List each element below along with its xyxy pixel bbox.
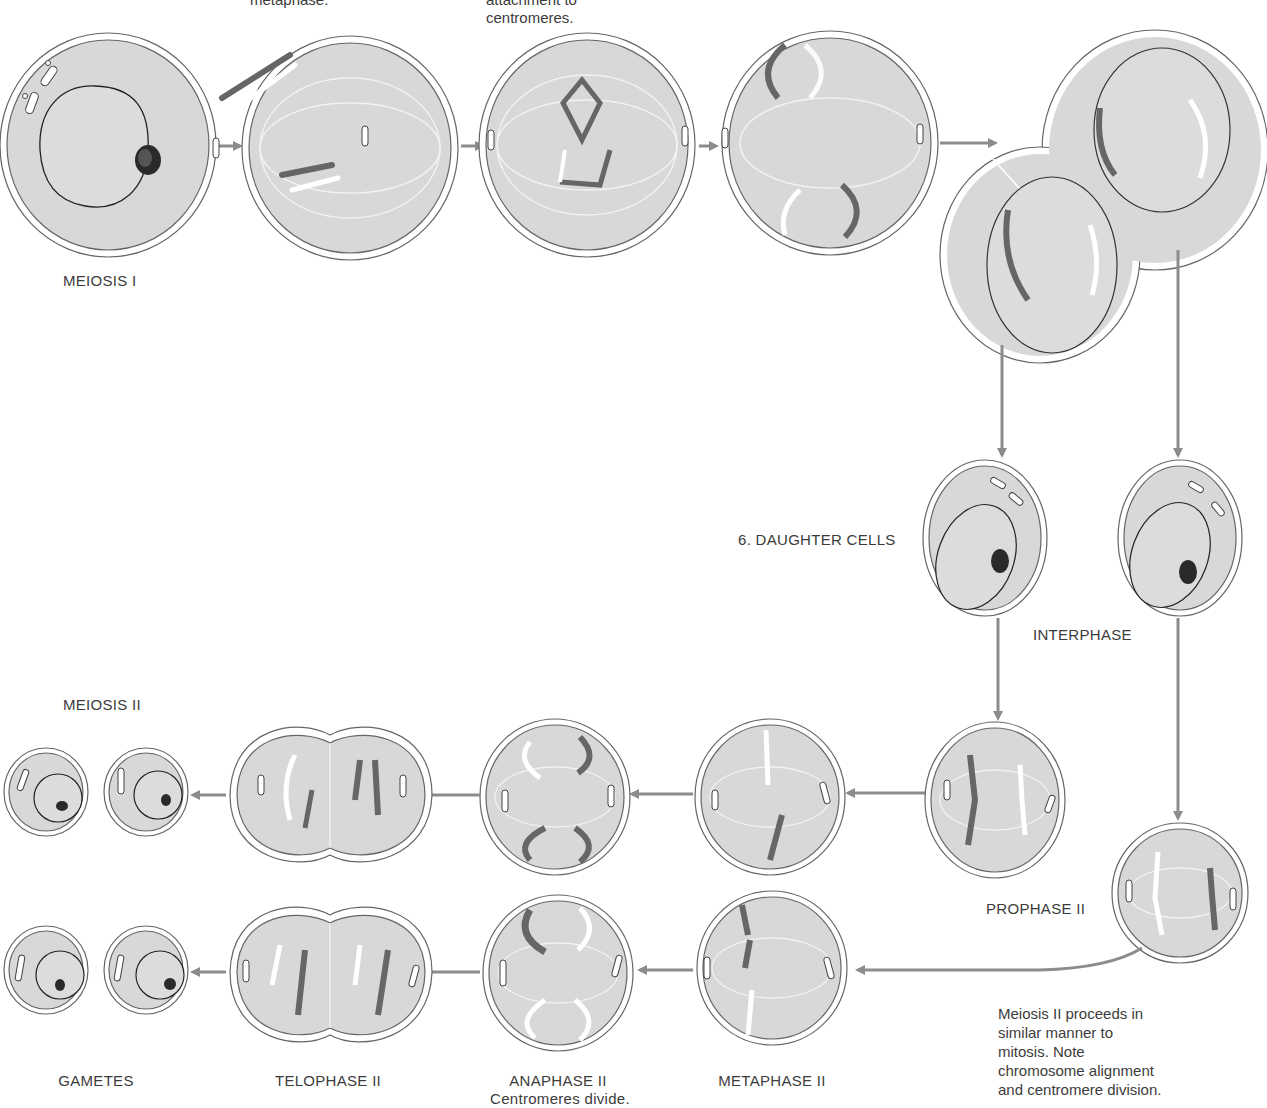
stage-sublabel-centromeres-divide: Centromeres divide. bbox=[490, 1090, 630, 1108]
cell-meiosis1-interphase bbox=[0, 33, 216, 257]
cell-telophase2-lower bbox=[230, 907, 432, 1042]
note-line: Meiosis II proceeds in bbox=[998, 1004, 1228, 1023]
cell-prophase2-left bbox=[925, 722, 1065, 878]
cell-metaphase2-upper bbox=[695, 719, 845, 875]
cell-meiosis1-anaphase bbox=[722, 31, 938, 255]
cell-gamete-lower-2 bbox=[104, 926, 188, 1014]
cell-meiosis1-attachment bbox=[479, 33, 695, 257]
cell-prophase2-right bbox=[1112, 823, 1248, 963]
cell-metaphase2-lower bbox=[697, 891, 847, 1045]
cell-anaphase2-upper bbox=[480, 719, 630, 875]
explanatory-note: Meiosis II proceeds in similar manner to… bbox=[998, 1004, 1228, 1099]
stage-label-prophase-2: PROPHASE II bbox=[986, 900, 1085, 918]
arrow bbox=[858, 948, 1142, 970]
cell-meiosis1-metaphase bbox=[213, 36, 458, 260]
cell-daughter-right bbox=[1116, 460, 1242, 619]
cell-gamete-lower-1 bbox=[4, 926, 88, 1014]
note-line: chromosome alignment bbox=[998, 1061, 1228, 1080]
note-line: similar manner to bbox=[998, 1023, 1228, 1042]
note-line: mitosis. Note bbox=[998, 1042, 1228, 1061]
stage-label-anaphase-2: ANAPHASE II bbox=[509, 1072, 607, 1090]
cell-telophase1-pair bbox=[940, 30, 1267, 363]
note-line: and centromere division. bbox=[998, 1080, 1228, 1099]
stage-label-daughter-cells: 6. DAUGHTER CELLS bbox=[738, 531, 896, 549]
stage-label-metaphase-2: METAPHASE II bbox=[718, 1072, 826, 1090]
section-label-meiosis-1: MEIOSIS I bbox=[63, 272, 137, 290]
cell-telophase2-upper bbox=[230, 727, 432, 862]
cell-anaphase2-lower bbox=[483, 895, 633, 1051]
cell-daughter-left bbox=[922, 460, 1047, 621]
stage-label-interphase: INTERPHASE bbox=[1033, 626, 1132, 644]
stage-label-gametes: GAMETES bbox=[58, 1072, 133, 1090]
caption-metaphase-fragment: metaphase. bbox=[250, 0, 328, 9]
cell-gamete-upper-1 bbox=[4, 748, 88, 836]
cell-gamete-upper-2 bbox=[104, 748, 188, 836]
meiosis-diagram bbox=[0, 0, 1267, 1108]
section-label-meiosis-2: MEIOSIS II bbox=[63, 696, 141, 714]
stage-label-telophase-2: TELOPHASE II bbox=[275, 1072, 381, 1090]
caption-attachment-line2: centromeres. bbox=[486, 8, 574, 27]
